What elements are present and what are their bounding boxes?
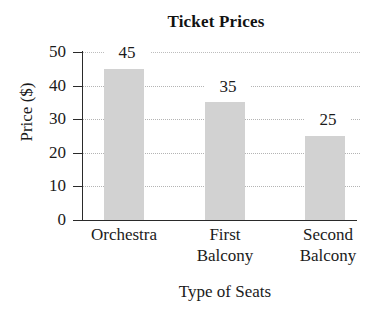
bar-chart: Ticket Prices 50 40 30 20 10 0 45 35: [0, 0, 390, 319]
y-axis-title: Price ($): [17, 52, 37, 172]
y-tick-mark-30: [73, 119, 82, 120]
bar-second-balcony: [305, 136, 345, 220]
y-tick-mark-10: [73, 186, 82, 187]
bar-orchestra: [104, 69, 144, 220]
y-tick-mark-20: [73, 153, 82, 154]
y-tick-mark-40: [73, 86, 82, 87]
y-tick-label-20: 20: [36, 144, 66, 161]
y-tick-label-10: 10: [36, 177, 66, 194]
bar-value-first-balcony: 35: [205, 78, 251, 95]
y-tick-label-30: 30: [36, 110, 66, 127]
bar-first-balcony: [205, 102, 245, 220]
y-tick-label-40: 40: [36, 77, 66, 94]
category-label-orchestra: Orchestra: [64, 224, 184, 245]
y-tick-label-0: 0: [36, 211, 66, 228]
y-tick-mark-50: [73, 52, 82, 53]
y-tick-label-50: 50: [36, 43, 66, 60]
y-tick-mark-0: [73, 220, 82, 221]
category-label-second-balcony: Second Balcony: [268, 224, 388, 266]
category-label-first-balcony: First Balcony: [170, 224, 280, 266]
bar-value-orchestra: 45: [104, 44, 150, 61]
chart-title: Ticket Prices: [0, 12, 390, 32]
bar-value-second-balcony: 25: [305, 111, 351, 128]
y-axis-line: [82, 51, 83, 221]
x-axis-title: Type of Seats: [60, 282, 390, 302]
x-axis-line: [82, 220, 357, 221]
